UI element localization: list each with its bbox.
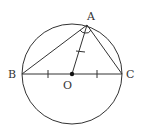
segment-ac — [87, 25, 122, 74]
angle-mark-oac — [85, 30, 91, 33]
label-c: C — [126, 68, 134, 81]
center-point-o — [70, 72, 74, 76]
tick-mark-ao — [76, 51, 85, 52]
label-o: O — [63, 79, 72, 92]
segment-ab — [22, 25, 87, 74]
label-b: B — [8, 68, 16, 81]
segment-ao — [72, 25, 87, 74]
angle-mark-bao — [80, 30, 85, 33]
label-a: A — [86, 10, 96, 23]
geometry-diagram: A B C O — [0, 0, 144, 139]
